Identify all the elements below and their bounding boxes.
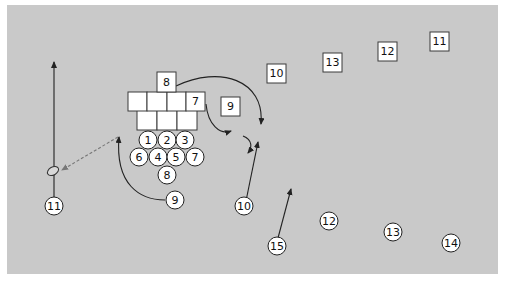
svg-text:11: 11 bbox=[433, 35, 447, 48]
svg-text:9: 9 bbox=[172, 194, 179, 207]
ball-icon bbox=[46, 165, 60, 178]
flyhalf-run-line bbox=[246, 142, 258, 201]
svg-text:15: 15 bbox=[270, 240, 284, 253]
scrum-square-second-3 bbox=[167, 92, 186, 111]
defender-9-run-line bbox=[243, 136, 251, 153]
scrum-square-second-4: 7 bbox=[186, 92, 205, 111]
scrum-circle-7: 7 bbox=[186, 148, 204, 166]
attacker-circle-12: 12 bbox=[320, 212, 338, 230]
attacker-circle-10: 10 bbox=[235, 197, 253, 215]
defender-square-12: 12 bbox=[378, 42, 397, 61]
scrum-square-second-2 bbox=[147, 92, 167, 111]
fullback-run-line bbox=[278, 189, 291, 238]
attacker-circle-13: 13 bbox=[384, 223, 402, 241]
svg-text:6: 6 bbox=[136, 151, 143, 164]
svg-text:8: 8 bbox=[163, 76, 170, 89]
attacker-circle-14: 14 bbox=[442, 234, 460, 252]
scrum-circle-8: 8 bbox=[158, 166, 176, 184]
attacker-circle-11: 11 bbox=[45, 197, 63, 215]
svg-text:12: 12 bbox=[381, 45, 395, 58]
svg-text:13: 13 bbox=[326, 56, 340, 69]
svg-text:10: 10 bbox=[237, 200, 251, 213]
scrum-square-front-1 bbox=[137, 110, 157, 130]
defender-square-10: 10 bbox=[267, 64, 286, 83]
svg-text:4: 4 bbox=[155, 151, 162, 164]
svg-text:12: 12 bbox=[322, 215, 336, 228]
pass-line bbox=[62, 137, 118, 170]
svg-text:11: 11 bbox=[47, 200, 61, 213]
svg-text:7: 7 bbox=[192, 95, 199, 108]
scrum-square-number-8: 8 bbox=[157, 72, 176, 92]
svg-text:2: 2 bbox=[164, 134, 171, 147]
svg-text:10: 10 bbox=[270, 67, 284, 80]
scrum-circle-5: 5 bbox=[167, 148, 185, 166]
attacker-circle-9: 9 bbox=[166, 191, 184, 209]
defender-square-11: 11 bbox=[430, 32, 449, 51]
scrum-circle-3: 3 bbox=[176, 131, 194, 149]
svg-text:8: 8 bbox=[164, 169, 171, 182]
attacker-circle-15: 15 bbox=[268, 237, 286, 255]
svg-text:3: 3 bbox=[182, 134, 189, 147]
defender-square-9: 9 bbox=[221, 97, 240, 116]
scrum-circle-1: 1 bbox=[139, 131, 157, 149]
scrum-circle-2: 2 bbox=[158, 131, 176, 149]
svg-text:7: 7 bbox=[192, 151, 199, 164]
svg-text:5: 5 bbox=[173, 151, 180, 164]
svg-text:9: 9 bbox=[227, 100, 234, 113]
svg-text:13: 13 bbox=[386, 226, 400, 239]
scrum-square-front-2 bbox=[157, 110, 177, 130]
scrum-square-second-1 bbox=[128, 92, 147, 111]
svg-text:1: 1 bbox=[145, 134, 152, 147]
play-diagram: 7 8 9 10 13 12 11 1 2 3 6 4 5 7 8 9 10 1… bbox=[0, 0, 514, 287]
scrum-circle-6: 6 bbox=[130, 148, 148, 166]
svg-text:14: 14 bbox=[444, 237, 458, 250]
scrum-circle-4: 4 bbox=[149, 148, 167, 166]
defender-square-13: 13 bbox=[323, 53, 342, 72]
scrum-square-front-3 bbox=[177, 110, 197, 130]
